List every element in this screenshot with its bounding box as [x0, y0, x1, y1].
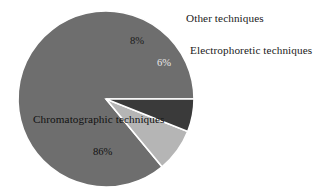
pie-chart-svg [0, 0, 319, 196]
slice-value-electrophoretic-techniques: 6% [157, 58, 171, 69]
pie-chart-figure: Other techniques Electrophoretic techniq… [0, 0, 319, 196]
slice-label-other-techniques: Other techniques [186, 13, 264, 24]
slice-value-chromatographic-techniques: 86% [93, 147, 112, 158]
slice-label-electrophoretic-techniques: Electrophoretic techniques [190, 45, 312, 56]
slice-value-other-techniques: 8% [130, 36, 144, 47]
pie-slice-group [18, 11, 194, 187]
slice-label-chromatographic-techniques: Chromatographic techniques [33, 114, 165, 125]
